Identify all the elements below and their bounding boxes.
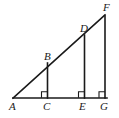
- right-angle-icon-c: [42, 92, 48, 98]
- right-angle-icon-g: [99, 92, 105, 98]
- hypotenuse-line: [13, 15, 105, 98]
- vertex-label-a: A: [9, 101, 16, 112]
- vertex-label-b: B: [44, 51, 51, 62]
- vertex-label-e: E: [79, 101, 86, 112]
- vertex-label-c: C: [43, 101, 50, 112]
- vertex-label-f: F: [103, 2, 110, 13]
- right-angle-icon-e: [79, 92, 85, 98]
- vertex-label-g: G: [100, 101, 108, 112]
- geometry-figure: A B C D E F G: [0, 0, 119, 118]
- right-angle-mark-group: [42, 92, 106, 98]
- vertex-label-d: D: [80, 23, 88, 34]
- segment-group: [13, 15, 107, 98]
